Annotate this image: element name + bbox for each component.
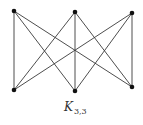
graph-caption: K3,3 bbox=[64, 100, 87, 116]
vertex-u2 bbox=[73, 10, 78, 15]
edge-u3-v2 bbox=[75, 13, 132, 91]
vertex-v2 bbox=[73, 89, 78, 94]
edge-u3-v1 bbox=[14, 13, 132, 90]
vertex-u1 bbox=[12, 9, 17, 14]
edge-u2-v3 bbox=[75, 12, 132, 87]
graph-edges bbox=[14, 11, 132, 91]
caption-main: K bbox=[64, 100, 73, 114]
caption-subscript: 3,3 bbox=[74, 107, 87, 116]
edge-u1-v3 bbox=[14, 11, 132, 87]
vertex-v3 bbox=[130, 85, 135, 90]
vertex-u3 bbox=[130, 11, 135, 16]
vertex-v1 bbox=[12, 88, 17, 93]
